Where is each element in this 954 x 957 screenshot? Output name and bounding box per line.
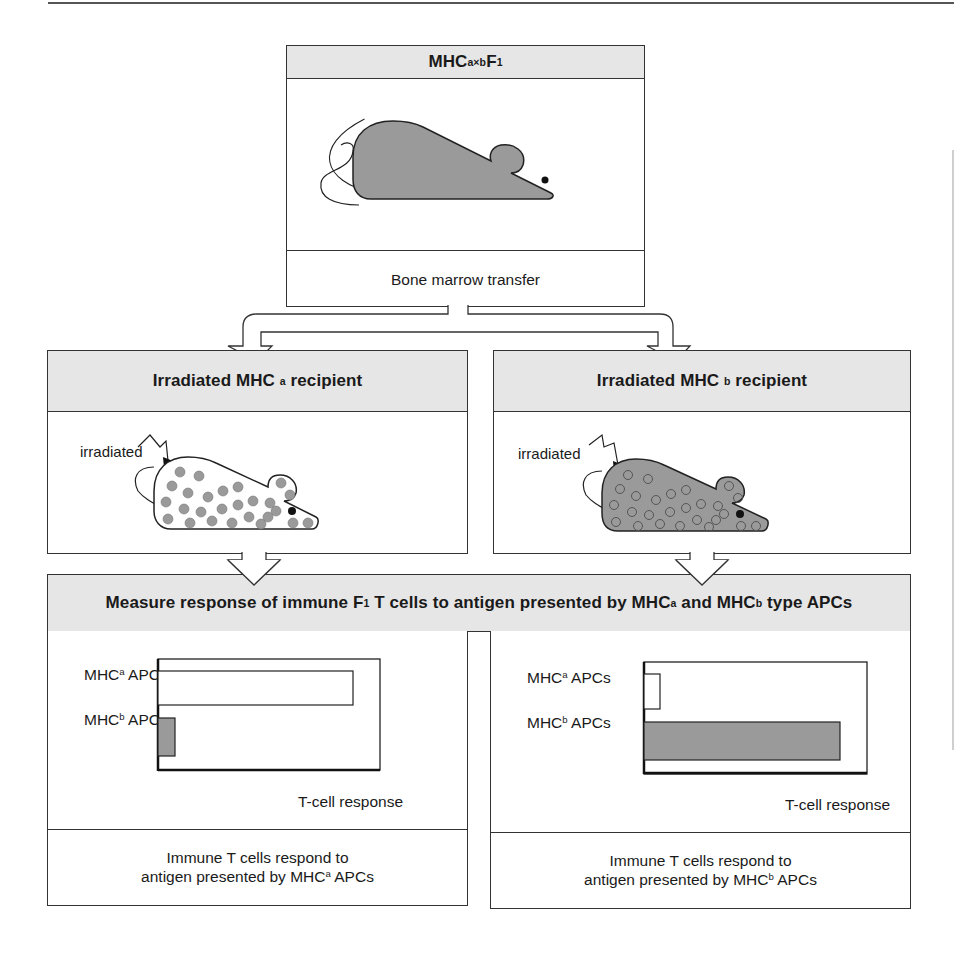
bar-mhca xyxy=(158,671,353,705)
donor-mouse-panel xyxy=(287,79,644,251)
result-a-box: MHCa APCs MHCb APCs T-cell response Immu… xyxy=(47,631,468,906)
result-b-caption: Immune T cells respond to antigen presen… xyxy=(491,833,910,907)
bar-mhcb xyxy=(158,718,175,756)
banner-part: T cells to antigen presented by MHC xyxy=(369,593,670,613)
irradiated-mouse-a-icon xyxy=(48,351,469,555)
caption-line: antigen presented by MHCb APCs xyxy=(584,870,817,889)
caption-text: APCs xyxy=(331,868,374,885)
recipient-a-box: Irradiated MHC a recipient irradiated xyxy=(47,350,468,554)
caption-line: Immune T cells respond to xyxy=(609,851,791,870)
axis-label: T-cell response xyxy=(298,793,403,811)
top-rule xyxy=(48,2,954,4)
mouse-icon xyxy=(287,79,646,250)
irradiated-mouse-b-icon xyxy=(494,351,912,555)
donor-caption: Bone marrow transfer xyxy=(287,251,644,307)
caption-text: APCs xyxy=(774,871,817,888)
donor-title: MHCa×bF1 xyxy=(287,46,644,79)
caption-text: antigen presented by MHC xyxy=(584,871,768,888)
caption-text: antigen presented by MHC xyxy=(141,868,325,885)
bar-chart-a xyxy=(48,631,469,791)
title-text: MHC xyxy=(428,52,467,72)
arrow-tips-icon xyxy=(0,552,954,592)
bar-mhca xyxy=(644,674,660,709)
donor-box: MHCa×bF1 Bone marrow transfer xyxy=(286,45,645,307)
banner-part: and MHC xyxy=(677,593,756,613)
banner-part: type APCs xyxy=(762,593,852,613)
caption-line: antigen presented by MHCa APCs xyxy=(141,867,374,886)
axis-label: T-cell response xyxy=(785,796,890,814)
caption-line: Immune T cells respond to xyxy=(166,848,348,867)
title-tail: F xyxy=(486,52,496,72)
result-a-caption: Immune T cells respond to antigen presen… xyxy=(48,830,467,904)
banner-part: Measure response of immune F xyxy=(106,593,364,613)
result-b-box: MHCa APCs MHCb APCs T-cell response Immu… xyxy=(490,631,911,909)
banner-text: Measure response of immune F1 T cells to… xyxy=(106,593,853,613)
bar-mhcb xyxy=(644,722,840,760)
bar-chart-b xyxy=(491,631,912,796)
recipient-b-box: Irradiated MHC b recipient irradiated xyxy=(493,350,911,554)
